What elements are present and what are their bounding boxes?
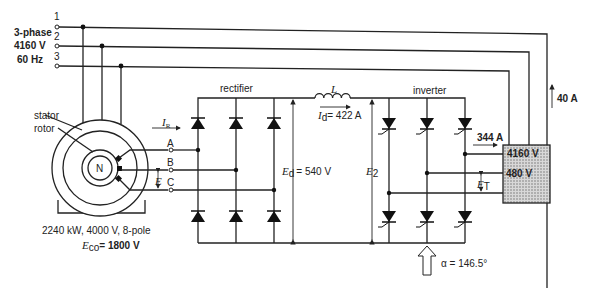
motor-rating: 2240 kW, 4000 V, 8-pole (42, 225, 151, 236)
pole-label: N (96, 163, 103, 174)
inductor-label: L (330, 83, 337, 95)
stator-label: stator (34, 110, 60, 121)
inverter-voltage: E2 (365, 165, 379, 179)
supply-voltage-label: 4160 V (14, 40, 46, 51)
rectifier-title: rectifier (220, 83, 253, 94)
phase-c-label: C (167, 177, 174, 188)
transformer-lv-label: 480 V (506, 168, 532, 179)
terminal-1 (55, 25, 59, 29)
firing-angle: α = 146.5° (441, 258, 487, 269)
inverter-title: inverter (413, 85, 447, 96)
phase-a-label: A (167, 138, 174, 149)
rotor-current-symbol: IR (161, 116, 171, 130)
circuit-diagram: 1 2 3 3-phase 4160 V 60 Hz stator rotor … (0, 0, 595, 289)
motor (45, 115, 274, 216)
terminal-2-label: 2 (54, 31, 60, 42)
supply-phase-label: 3-phase (14, 27, 52, 38)
motor-eco: Eco= 1800 V (81, 239, 140, 253)
transformer (503, 85, 552, 203)
supply-frequency-label: 60 Hz (17, 54, 43, 65)
dc-current: Id= 422 A (317, 109, 362, 123)
transformer-input-current: 344 A (477, 132, 503, 143)
rotor-voltage-symbol: E (154, 175, 162, 187)
phase-b-label: B (167, 157, 174, 168)
terminal-1-label: 1 (54, 11, 60, 22)
rectifier-voltage: Ed= 540 V (281, 165, 331, 179)
terminal-3-label: 3 (54, 51, 60, 62)
transformer-voltage: ET (476, 178, 490, 192)
rotor-label: rotor (34, 123, 55, 134)
terminal-3 (55, 64, 59, 68)
line-current: 40 A (557, 93, 578, 104)
transformer-hv-label: 4160 V (507, 148, 539, 159)
terminal-2 (55, 44, 59, 48)
